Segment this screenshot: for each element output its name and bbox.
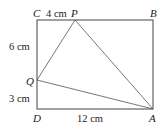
label-b: B [150, 7, 157, 19]
length-qd: 3 cm [9, 93, 30, 104]
label-d: D [32, 112, 41, 124]
length-cq: 6 cm [9, 41, 30, 52]
rectangle-abcd [37, 20, 153, 109]
length-cp: 4 cm [46, 8, 67, 19]
segment-pa [75, 20, 153, 109]
label-q: Q [26, 75, 34, 87]
geometry-diagram: C 4 cm P B 6 cm Q 3 cm D 12 cm A [0, 0, 163, 125]
label-p: P [70, 7, 78, 19]
label-c: C [33, 7, 41, 19]
segment-pq [37, 20, 75, 80]
length-da: 12 cm [77, 113, 103, 124]
segment-qa [37, 80, 153, 109]
label-a: A [148, 112, 156, 124]
